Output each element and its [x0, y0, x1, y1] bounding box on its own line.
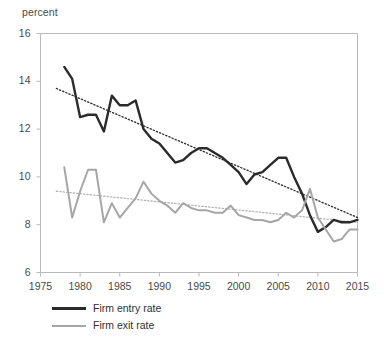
x-tick-label-1985: 1985 [100, 280, 140, 292]
legend-swatch-entry-icon [52, 307, 86, 310]
x-tick-label-1995: 1995 [179, 280, 219, 292]
y-tick-label-10: 10 [9, 170, 31, 182]
legend-item-exit[interactable]: Firm exit rate [52, 317, 161, 334]
x-tick-label-1990: 1990 [139, 280, 179, 292]
y-tick-label-12: 12 [9, 122, 31, 134]
y-tick-label-14: 14 [9, 74, 31, 86]
legend-label-entry: Firm entry rate [93, 303, 161, 314]
x-tick-label-2015: 2015 [338, 280, 378, 292]
chart-legend: Firm entry rate Firm exit rate [52, 300, 161, 334]
y-tick-label-6: 6 [9, 266, 31, 278]
y-tick-label-16: 16 [9, 27, 31, 39]
legend-label-exit: Firm exit rate [93, 320, 154, 331]
x-tick-label-2010: 2010 [298, 280, 338, 292]
y-tick-label-8: 8 [9, 218, 31, 230]
x-tick-label-2000: 2000 [219, 280, 259, 292]
x-tick-label-1980: 1980 [60, 280, 100, 292]
firm-entry-exit-rate-chart: percent 6810121416 197519801985199019952… [0, 0, 384, 342]
legend-swatch-exit-icon [52, 325, 86, 327]
x-tick-label-2005: 2005 [258, 280, 298, 292]
x-tick-label-1975: 1975 [21, 280, 61, 292]
legend-item-entry[interactable]: Firm entry rate [52, 300, 161, 317]
